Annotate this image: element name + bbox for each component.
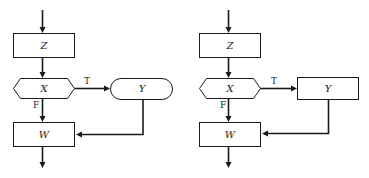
false-label: F (33, 100, 39, 110)
true-label: T (271, 76, 277, 86)
process-w-label: W (39, 129, 50, 140)
process-z-label: Z (226, 40, 235, 51)
exit-arrow (40, 147, 46, 169)
process-w-label: W (225, 129, 236, 140)
arrow-z-to-x (40, 58, 46, 79)
false-label: F (220, 100, 226, 110)
flowchart-canvas: Z X T Y F (0, 0, 369, 178)
entry-arrow (226, 10, 232, 33)
process-y: Y (298, 78, 359, 100)
arrow-z-to-x (226, 58, 232, 79)
decision-x-label: X (39, 83, 48, 94)
arrow-false-x-to-w: F (220, 99, 232, 123)
exit-arrow (226, 147, 232, 169)
arrow-false-x-to-w: F (33, 99, 46, 123)
arrow-true-x-to-y: T (261, 76, 298, 92)
process-z: Z (14, 34, 75, 58)
left-flowchart: Z X T Y F (14, 10, 173, 168)
true-label: T (84, 76, 90, 86)
decision-x-label: X (225, 83, 234, 94)
terminal-y: Y (111, 79, 173, 100)
decision-x: X (14, 79, 75, 99)
process-z: Z (200, 34, 261, 58)
process-w: W (14, 123, 75, 147)
process-z-label: Z (40, 40, 49, 51)
arrow-y-to-w (262, 100, 329, 137)
right-flowchart: Z X T Y F (200, 10, 359, 168)
process-w: W (200, 123, 261, 147)
decision-x: X (200, 79, 261, 99)
arrow-true-x-to-y: T (75, 76, 111, 92)
arrow-y-to-w (76, 100, 143, 138)
entry-arrow (40, 10, 46, 33)
